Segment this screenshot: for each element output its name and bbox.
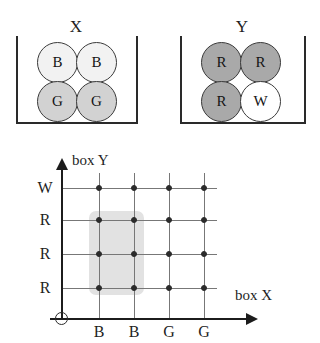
grid-node [131,217,137,223]
box-x-container [16,36,138,124]
ball-label: W [253,94,267,109]
gridline-row-r2 [62,254,217,255]
ball-x-b-2: B [76,42,117,83]
x-tick-label-b2: B [123,324,145,340]
box-x-title: X [15,18,137,35]
origin-marker-icon [55,312,68,325]
figure-root: X B B G G Y R R R W box Y [0,0,320,343]
gridline-row-r3 [62,288,217,289]
gridline-col-g1 [169,173,170,319]
x-tick-label-b1: B [88,324,110,340]
grid-node [201,217,207,223]
ball-y-r-3: R [201,81,242,122]
gridline-col-b2 [134,173,135,319]
ball-x-g-1: G [37,81,78,122]
x-tick-label-g2: G [193,324,215,340]
y-axis-label: box Y [72,153,109,168]
grid-node [166,251,172,257]
x-axis-label: box X [235,288,272,303]
x-tick-label-g1: G [158,324,180,340]
box-x-group: X B B G G [0,0,155,140]
ball-x-g-2: G [76,81,117,122]
grid-node [166,217,172,223]
x-axis-arrow-icon [246,313,258,325]
ball-label: R [255,55,265,70]
grid-node [166,185,172,191]
ball-x-b-1: B [37,42,78,83]
x-axis-line [50,318,248,320]
y-tick-label-w: W [34,180,56,196]
gridline-row-r1 [62,220,217,221]
ball-label: R [216,94,226,109]
grid-node [201,285,207,291]
ball-y-r-2: R [240,42,281,83]
sample-space-grid-plot: box Y box X [0,148,320,343]
ball-label: B [91,55,101,70]
grid-node [131,285,137,291]
ball-label: B [52,55,62,70]
grid-node [96,285,102,291]
gridline-row-w [62,188,217,189]
grid-node [131,251,137,257]
gridline-col-b1 [99,173,100,319]
ball-label: G [91,94,102,109]
ball-label: R [216,55,226,70]
y-tick-label-r1: R [34,212,56,228]
ball-label: G [52,94,63,109]
grid-node [96,185,102,191]
grid-node [96,251,102,257]
box-y-title: Y [179,18,305,35]
y-axis-arrow-icon [56,158,68,170]
grid-node [131,185,137,191]
grid-node [166,285,172,291]
y-tick-label-r2: R [34,246,56,262]
box-y-group: Y R R R W [165,0,320,140]
grid-node [201,251,207,257]
gridline-col-g2 [204,173,205,319]
grid-node [96,217,102,223]
ball-y-w-1: W [240,81,281,122]
ball-y-r-1: R [201,42,242,83]
y-axis-line [61,168,63,320]
y-tick-label-r3: R [34,280,56,296]
grid-node [201,185,207,191]
